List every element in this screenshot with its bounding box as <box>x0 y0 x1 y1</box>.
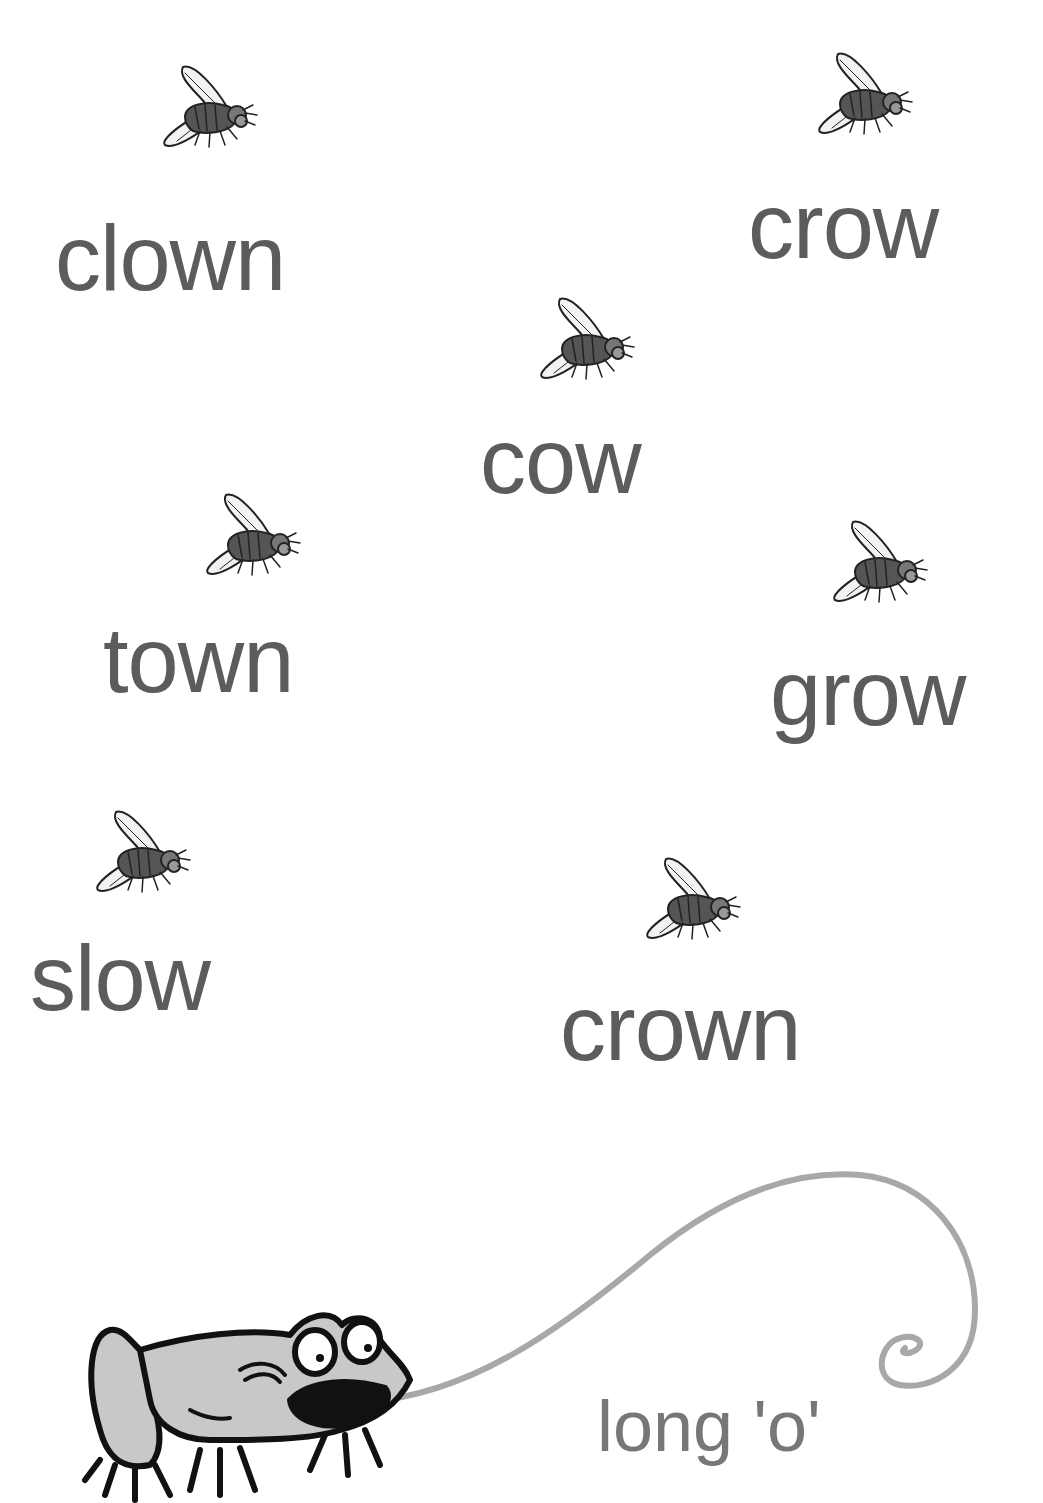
phonics-title: long 'o' <box>597 1390 821 1462</box>
frog-icon <box>80 1300 420 1503</box>
frog-tongue <box>0 0 1043 1503</box>
